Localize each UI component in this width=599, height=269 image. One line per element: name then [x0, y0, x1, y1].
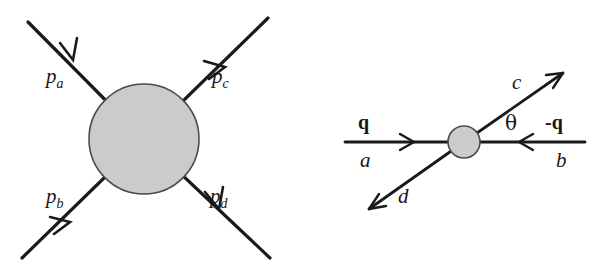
label-d: d: [398, 186, 409, 207]
leg-d-line: [369, 142, 464, 209]
scattering-diagram-figure: pa pb pc pd q a -q b c d θ: [0, 0, 599, 269]
interaction-blob-large: [89, 84, 199, 194]
label-p-c: pc: [212, 66, 229, 91]
leg-pb-arrowhead: [50, 217, 70, 234]
label-p-b: pb: [46, 186, 63, 211]
label-q-vector: q: [358, 112, 369, 132]
label-minus-q-vector: -q: [545, 112, 563, 132]
interaction-blob-small: [448, 126, 480, 158]
label-p-d: pd: [210, 186, 227, 211]
label-theta-angle: θ: [505, 113, 517, 133]
label-a: a: [360, 150, 371, 171]
left-diagram-group: [22, 18, 270, 258]
label-b: b: [556, 150, 567, 171]
right-diagram-group: [345, 73, 585, 209]
label-c: c: [512, 72, 521, 93]
label-p-a: pa: [46, 66, 63, 91]
